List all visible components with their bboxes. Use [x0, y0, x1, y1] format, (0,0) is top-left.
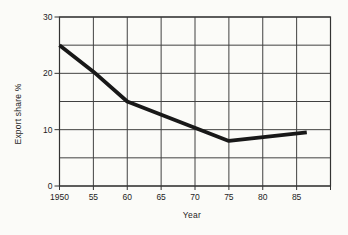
x-tick-label: 80: [258, 192, 268, 202]
x-tick-label: 70: [190, 192, 200, 202]
export-share-line-chart: 0102030195055606570758085: [0, 0, 348, 235]
x-tick-label: 60: [123, 192, 133, 202]
x-tick-label: 55: [89, 192, 99, 202]
y-axis-title: Export share %: [13, 84, 23, 145]
y-tick-label: 30: [43, 12, 53, 22]
y-tick-label: 10: [43, 125, 53, 135]
x-tick-label: 85: [292, 192, 302, 202]
x-tick-label: 65: [156, 192, 166, 202]
x-axis-title: Year: [183, 210, 201, 220]
y-tick-label: 20: [43, 68, 53, 78]
x-tick-label: 1950: [50, 192, 69, 202]
x-tick-label: 75: [224, 192, 234, 202]
export-share-figure: 0102030195055606570758085 Export share %…: [0, 0, 348, 235]
data-line: [60, 45, 307, 141]
y-tick-label: 0: [48, 181, 53, 191]
